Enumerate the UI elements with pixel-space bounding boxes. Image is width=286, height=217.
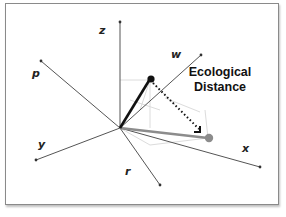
axis-label-y: y [38, 138, 45, 151]
axis-label-w: w [171, 48, 181, 61]
axes [36, 22, 260, 185]
axis-label-z: z [99, 24, 105, 37]
annotation-line-1: Ecological [180, 65, 260, 80]
axis-label-x: x [242, 142, 249, 155]
gray-point [205, 134, 213, 142]
x-axis [120, 128, 260, 167]
black-point [147, 75, 154, 82]
ecological-distance-label: Ecological Distance [180, 65, 260, 95]
p-axis [41, 61, 120, 128]
black-vector [120, 79, 150, 128]
annotation-line-2: Distance [180, 80, 260, 95]
axis-label-p: p [32, 67, 40, 80]
arrowhead-icon [194, 126, 200, 132]
y-axis [36, 128, 120, 160]
vector-space-diagram [0, 0, 286, 217]
axis-endpoints [35, 21, 262, 187]
axis-label-r: r [125, 165, 130, 178]
